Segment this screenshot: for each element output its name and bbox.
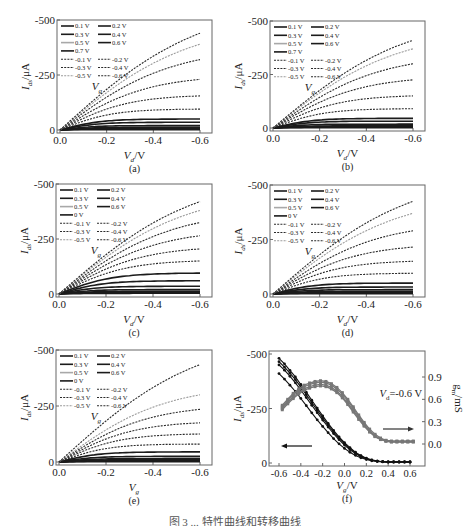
x-tick-label: 0.0 <box>266 132 280 144</box>
gm-data-point <box>324 385 327 388</box>
legend-label: 0.3 V <box>75 31 90 38</box>
x-axis-label: Vg <box>129 481 140 496</box>
legend-label: -0.2 V <box>325 221 342 228</box>
legend-label: 0.2 V <box>111 186 126 193</box>
legend-label: 0.4 V <box>111 195 126 202</box>
y-axis-label: Ids/μA <box>18 394 33 422</box>
gm-data-point <box>346 403 349 406</box>
legend-label: 0.4 V <box>325 32 340 39</box>
legend-label: 0.5 V <box>75 39 90 46</box>
gm-data-point <box>406 440 409 443</box>
legend-label: -0.1 V <box>288 221 305 228</box>
ids-data-point <box>349 448 352 451</box>
legend-label: 0.5 V <box>74 203 89 210</box>
legend-label: 0.7 V <box>75 47 90 54</box>
legend-label: 0.6 V <box>325 40 340 47</box>
y-tick-label: -500 <box>248 15 269 27</box>
gm-data-point <box>357 418 360 421</box>
x-axis-label: Vd/V <box>337 313 358 328</box>
x-tick-label: -0.2 <box>311 298 328 310</box>
ids-data-point <box>316 418 319 421</box>
legend-label: -0.1 V <box>74 220 91 227</box>
x-tick-label: -0.2 <box>311 132 328 144</box>
ids-data-point <box>289 372 292 375</box>
x-tick-label: 0.4 <box>382 468 396 479</box>
y-tick-label: -500 <box>34 344 55 356</box>
legend-label: -0.1 V <box>75 56 92 63</box>
gm-data-point <box>379 438 382 441</box>
x-tick-label: 0.0 <box>53 134 67 146</box>
x-tick-label: -0.4 <box>293 468 310 479</box>
x-axis-label: Vg/V <box>336 479 357 494</box>
legend-label: 0 V <box>74 377 84 384</box>
legend-label: 0.2 V <box>325 23 340 30</box>
ids-data-point <box>310 404 313 407</box>
x-tick-label: -0.6 <box>191 466 209 478</box>
legend-label: -0.2 V <box>112 56 129 63</box>
ids-data-point <box>305 396 308 399</box>
annotation: Vd=-0.6 V <box>380 388 423 402</box>
y-tick-label: -250 <box>34 400 55 412</box>
ids-series-line <box>279 362 410 462</box>
gm-data-point <box>308 387 311 390</box>
ids-data-point <box>392 461 395 464</box>
x-tick-label: 0.0 <box>266 298 280 310</box>
y-tick-label: -500 <box>35 14 56 26</box>
legend-label: 0.3 V <box>288 196 303 203</box>
plot-frame <box>269 351 425 466</box>
y-right-tick-label: 0.9 <box>428 371 442 383</box>
gm-data-point <box>314 385 317 388</box>
ids-data-point <box>299 397 302 400</box>
legend-label: 0.6 V <box>112 39 127 46</box>
legend-label: 0.7 V <box>288 48 303 55</box>
legend-title: Vg <box>305 245 316 260</box>
ids-data-point <box>278 360 281 363</box>
legend-label: -0.4 V <box>112 64 129 71</box>
x-tick-label: -0.6 <box>191 298 209 310</box>
ids-data-point <box>338 442 341 445</box>
ids-data-point <box>387 461 390 464</box>
ids-data-point <box>316 411 319 414</box>
legend-label: -0.5 V <box>74 402 91 409</box>
legend-label: 0.1 V <box>288 187 303 194</box>
legend-label: 0.3 V <box>74 195 89 202</box>
y-axis-label: Ids/μA <box>231 395 246 423</box>
ids-data-point <box>365 458 368 461</box>
legend-label: -0.6 V <box>112 72 129 79</box>
gm-data-point <box>281 408 284 411</box>
gm-data-point <box>330 387 333 390</box>
x-tick-label: -0.4 <box>144 466 162 478</box>
legend-label: 0.4 V <box>325 196 340 203</box>
legend-label: -0.2 V <box>111 386 128 393</box>
ids-data-point <box>289 375 292 378</box>
legend-label: 0.5 V <box>74 369 89 376</box>
gm-data-point <box>319 384 322 387</box>
legend-label: -0.3 V <box>288 229 305 236</box>
legend-label: 0.5 V <box>288 40 303 47</box>
ids-data-point <box>327 431 330 434</box>
legend-label: -0.1 V <box>74 386 91 393</box>
y-right-tick-label: 0.0 <box>428 438 442 450</box>
x-tick-label: 0.0 <box>52 298 66 310</box>
legend-label: 0.2 V <box>325 187 340 194</box>
chart-panel-d: 0-250-5000.0-0.2-0.4-0.6Vd/VIds/μA(d)0.1… <box>232 179 425 339</box>
gm-data-point <box>368 431 371 434</box>
legend-label: -0.4 V <box>111 394 128 401</box>
gm-data-point <box>395 440 398 443</box>
ids-data-point <box>294 381 297 384</box>
legend-label: 0.2 V <box>111 352 126 359</box>
ids-data-point <box>370 459 373 462</box>
gm-data-point <box>297 393 300 396</box>
y-axis-label: Ids/μA <box>232 227 247 255</box>
gm-data-point <box>286 402 289 405</box>
ids-data-point <box>332 432 335 435</box>
legend-label: -0.6 V <box>325 237 342 244</box>
left-arrowhead-icon <box>281 444 287 449</box>
y-right-tick-label: 0.6 <box>428 393 442 405</box>
legend-label: 0.1 V <box>75 22 90 29</box>
gm-data-point <box>341 396 344 399</box>
x-tick-label: 0.0 <box>52 466 66 478</box>
gm-data-point <box>352 410 355 413</box>
legend-label: 0.4 V <box>111 361 126 368</box>
ids-data-point <box>283 362 286 365</box>
